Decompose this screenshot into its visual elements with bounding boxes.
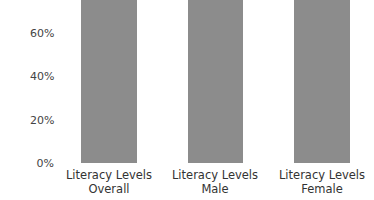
x-label-line: Overall — [54, 182, 164, 196]
bar-overall — [81, 0, 137, 163]
x-label-line: Male — [160, 182, 270, 196]
bar-male — [188, 0, 243, 163]
y-tick-0: 0% — [30, 157, 54, 170]
x-label-female: Literacy Levels Female — [267, 168, 374, 196]
bar-chart: 60% 40% 20% 0% Literacy Levels Overall L… — [0, 0, 374, 200]
x-label-overall: Literacy Levels Overall — [54, 168, 164, 196]
x-label-line: Female — [267, 182, 374, 196]
bar-female — [294, 0, 350, 163]
y-tick-20: 20% — [30, 114, 54, 127]
x-label-line: Literacy Levels — [54, 168, 164, 182]
x-label-male: Literacy Levels Male — [160, 168, 270, 196]
y-tick-40: 40% — [30, 70, 54, 83]
x-label-line: Literacy Levels — [267, 168, 374, 182]
x-label-line: Literacy Levels — [160, 168, 270, 182]
y-tick-60: 60% — [30, 27, 54, 40]
